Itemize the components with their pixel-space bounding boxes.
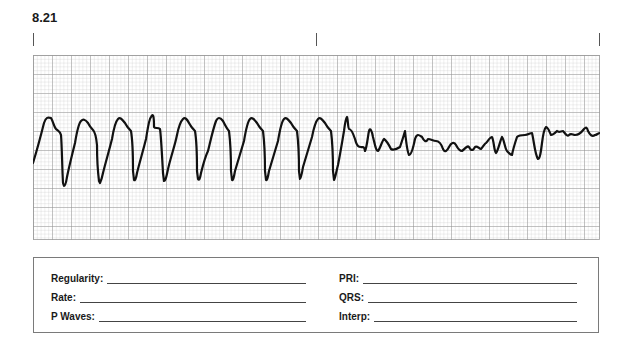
- rate-field[interactable]: Rate:: [51, 289, 306, 303]
- ecg-grid: [33, 55, 600, 240]
- figure-number: 8.21: [32, 10, 57, 25]
- p-waves-input-line[interactable]: [99, 312, 306, 322]
- ecg-strip: [33, 55, 600, 240]
- p-waves-label: P Waves:: [51, 311, 95, 322]
- time-marker-tick: [599, 33, 600, 46]
- regularity-label: Regularity:: [51, 273, 103, 284]
- pri-field[interactable]: PRI:: [339, 270, 577, 284]
- pri-label: PRI:: [339, 273, 359, 284]
- p-waves-field[interactable]: P Waves:: [51, 308, 306, 322]
- rate-input-line[interactable]: [80, 293, 306, 303]
- qrs-field[interactable]: QRS:: [339, 289, 577, 303]
- qrs-label: QRS:: [339, 292, 364, 303]
- pri-input-line[interactable]: [363, 274, 577, 284]
- ecg-svg: [33, 55, 600, 240]
- interp-input-line[interactable]: [374, 312, 577, 322]
- rate-label: Rate:: [51, 292, 76, 303]
- regularity-input-line[interactable]: [107, 274, 306, 284]
- regularity-field[interactable]: Regularity:: [51, 270, 306, 284]
- interp-field[interactable]: Interp:: [339, 308, 577, 322]
- interpretation-form: Regularity: Rate: P Waves: PRI: QRS: Int…: [33, 257, 599, 333]
- time-marker-tick: [33, 33, 34, 46]
- interp-label: Interp:: [339, 311, 370, 322]
- time-marker-tick: [316, 33, 317, 46]
- qrs-input-line[interactable]: [368, 293, 577, 303]
